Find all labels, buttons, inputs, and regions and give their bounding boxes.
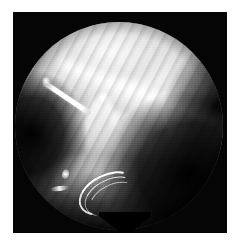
optical-vignette [15, 22, 223, 230]
figure-caption [13, 236, 227, 246]
figure-container [0, 0, 246, 250]
endoscope-field-of-view [15, 22, 223, 230]
image-matte-plate [13, 12, 227, 233]
